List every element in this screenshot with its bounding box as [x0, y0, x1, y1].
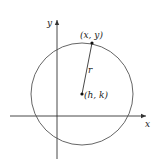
y-axis-label: y	[46, 18, 53, 28]
x-axis-label: x	[145, 119, 150, 129]
point-label: (x, y)	[80, 30, 103, 40]
circle-diagram: y x (x, y) r (h, k)	[0, 0, 159, 159]
radius-label: r	[88, 65, 93, 75]
center-label: (h, k)	[84, 90, 108, 100]
circle-point	[90, 41, 93, 44]
